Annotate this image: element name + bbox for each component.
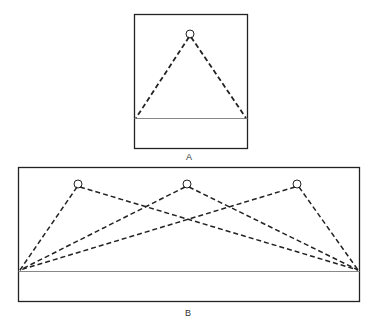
panel-a-frame (135, 15, 248, 149)
diagram: A B (0, 0, 373, 326)
panel-b: B (19, 168, 360, 319)
panel-b-ray-right-to-right (299, 187, 358, 270)
panel-b-ray-center-to-right (189, 187, 358, 270)
panel-b-ray-left-to-right (80, 187, 358, 270)
panel-a-ray-left (136, 37, 189, 118)
panel-b-ray-left-to-left (20, 187, 77, 270)
panel-b-label: B (185, 308, 191, 318)
panel-a-ray-right (191, 37, 246, 118)
panel-a: A (135, 15, 248, 163)
panel-a-source-circle (186, 30, 194, 38)
panel-b-ray-center-to-left (20, 187, 185, 270)
panel-b-ray-right-to-left (20, 187, 295, 270)
panel-a-label: A (186, 152, 192, 162)
